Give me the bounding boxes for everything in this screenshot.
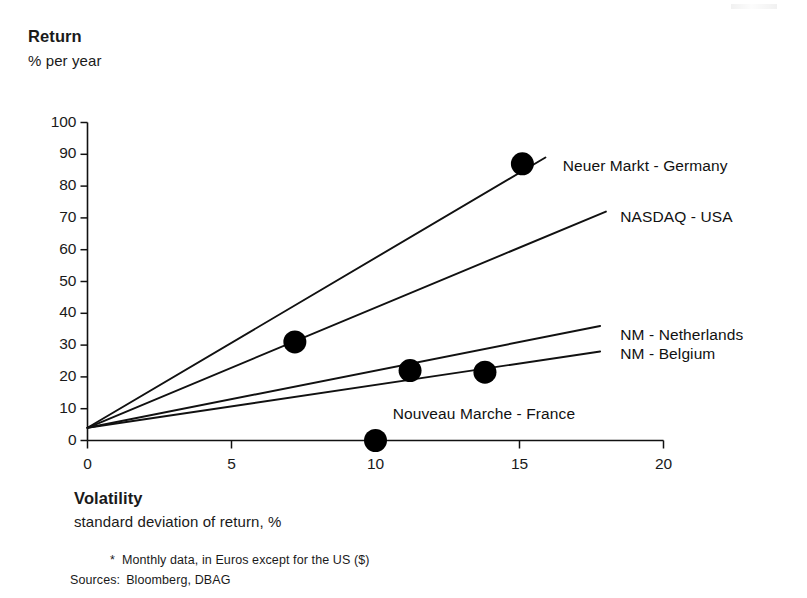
series-label: NASDAQ - USA [620,208,732,226]
y-tick-label: 0 [37,431,77,449]
y-tick-label: 60 [37,240,77,258]
x-tick-label: 0 [68,455,108,473]
x-tick-label: 15 [500,455,540,473]
x-tick-label: 10 [356,455,396,473]
y-tick-label: 50 [37,272,77,290]
y-tick-label: 30 [37,335,77,353]
series-label: NM - Belgium [620,345,715,363]
y-tick-label: 10 [37,399,77,417]
chart-series-lines [88,157,606,427]
y-tick-label: 20 [37,367,77,385]
y-tick-label: 70 [37,208,77,226]
y-tick-label: 100 [37,113,77,131]
y-tick-label: 90 [37,144,77,162]
x-tick-label: 5 [212,455,252,473]
series-label: NM - Netherlands [620,326,743,344]
y-tick-label: 40 [37,303,77,321]
x-tick-label: 20 [644,455,684,473]
y-tick-label: 80 [37,176,77,194]
chart-page: Return % per year Volatility standard de… [0,0,807,598]
chart-plot-area [0,0,807,598]
series-label: Nouveau Marche - France [393,405,575,423]
series-label: Neuer Markt - Germany [563,157,728,175]
